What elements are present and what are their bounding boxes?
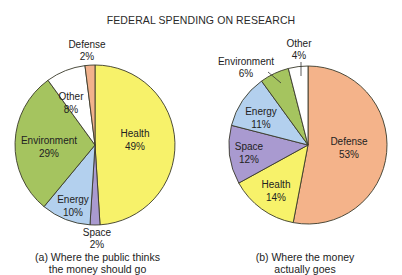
- label-b-health-name: Health: [262, 179, 291, 190]
- caption-b: (b) Where the money actually goes: [230, 251, 380, 275]
- label-b-defense-name: Defense: [330, 136, 368, 147]
- caption-b-line1: (b) Where the money: [230, 251, 380, 263]
- label-a-defense-pct: 2%: [80, 51, 95, 62]
- label-a-space-name: Space: [83, 227, 112, 238]
- label-b-environment-name: Environment: [218, 56, 274, 67]
- pie-charts: Health 49% Environment 29% Other 8% Ener…: [0, 0, 402, 275]
- label-a-energy-pct: 10%: [63, 207, 83, 218]
- label-b-other-pct: 4%: [292, 50, 307, 61]
- label-a-space-pct: 2%: [90, 239, 105, 250]
- label-a-other-name: Other: [58, 91, 84, 102]
- label-a-environment-pct: 29%: [39, 148, 59, 159]
- label-a-health-pct: 49%: [125, 141, 145, 152]
- label-a-health-name: Health: [121, 128, 150, 139]
- label-b-environment-pct: 6%: [239, 68, 254, 79]
- label-b-energy-name: Energy: [245, 106, 277, 117]
- caption-b-line2: actually goes: [230, 263, 380, 275]
- label-a-other-pct: 8%: [64, 104, 79, 115]
- label-b-health-pct: 14%: [266, 192, 286, 203]
- label-b-space-name: Space: [235, 141, 264, 152]
- label-a-defense-name: Defense: [68, 39, 106, 50]
- label-a-environment-name: Environment: [21, 135, 77, 146]
- label-a-energy-name: Energy: [57, 194, 89, 205]
- label-b-space-pct: 12%: [239, 154, 259, 165]
- caption-a: (a) Where the public thinks the money sh…: [0, 251, 195, 275]
- label-b-other-name: Other: [286, 38, 312, 49]
- caption-a-line2: the money should go: [0, 263, 195, 275]
- label-b-defense-pct: 53%: [339, 149, 359, 160]
- caption-a-line1: (a) Where the public thinks: [0, 251, 195, 263]
- label-b-energy-pct: 11%: [251, 119, 270, 130]
